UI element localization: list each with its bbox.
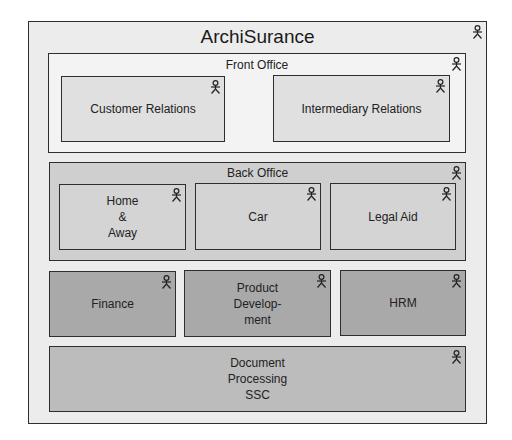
legal-aid-box[interactable]: Legal Aid [330, 183, 456, 250]
business-actor-icon [451, 57, 462, 71]
front-office-label: Front Office [49, 58, 465, 73]
business-actor-icon [472, 25, 483, 39]
business-actor-icon [441, 187, 452, 201]
back-office-label: Back Office [50, 166, 465, 181]
archisurance-title: ArchiSurance [29, 26, 486, 48]
finance-label: Finance [50, 272, 175, 336]
hrm-box[interactable]: HRM [340, 270, 466, 336]
business-actor-icon [171, 188, 182, 202]
business-actor-icon [435, 79, 446, 93]
finance-box[interactable]: Finance [49, 271, 176, 337]
product-development-box[interactable]: Product Develop- ment [184, 270, 331, 337]
hrm-label: HRM [341, 271, 465, 335]
home-away-box[interactable]: Home & Away [59, 184, 186, 250]
intermediary-relations-box[interactable]: Intermediary Relations [273, 75, 450, 142]
document-processing-ssc-box[interactable]: Document Processing SSC [49, 346, 466, 412]
intermediary-relations-label: Intermediary Relations [274, 76, 449, 141]
home-away-label: Home & Away [60, 185, 185, 249]
car-box[interactable]: Car [195, 183, 321, 250]
product-development-label: Product Develop- ment [185, 271, 330, 336]
customer-relations-label: Customer Relations [62, 77, 224, 141]
business-actor-icon [306, 187, 317, 201]
business-actor-icon [451, 350, 462, 364]
document-processing-ssc-label: Document Processing SSC [50, 347, 465, 411]
business-actor-icon [451, 274, 462, 288]
diagram-canvas: ArchiSurance Front Office Customer Relat… [0, 0, 512, 440]
business-actor-icon [210, 80, 221, 94]
business-actor-icon [451, 166, 462, 180]
car-label: Car [196, 184, 320, 249]
business-actor-icon [161, 275, 172, 289]
business-actor-icon [316, 274, 327, 288]
customer-relations-box[interactable]: Customer Relations [61, 76, 225, 142]
legal-aid-label: Legal Aid [331, 184, 455, 249]
